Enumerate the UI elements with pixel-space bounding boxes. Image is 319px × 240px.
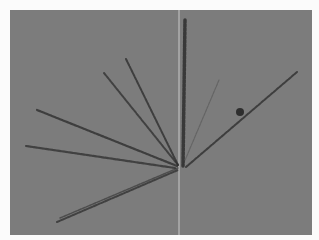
crystal-needle — [60, 168, 178, 218]
crystal-needle — [57, 170, 178, 222]
crystal-needle — [183, 80, 219, 165]
crystal-needles-scene — [0, 0, 319, 240]
crystal-needle — [183, 20, 185, 166]
crystal-blob — [236, 108, 244, 116]
